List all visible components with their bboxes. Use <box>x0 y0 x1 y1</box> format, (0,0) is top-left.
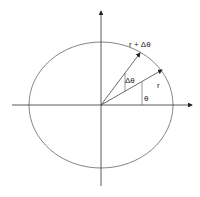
polar-diagram: r + Δθ Δθ r θ <box>0 0 200 197</box>
label-r-plus-dtheta: r + Δθ <box>129 40 151 49</box>
diagram-svg: r + Δθ Δθ r θ <box>0 0 200 197</box>
label-r: r <box>157 81 160 90</box>
label-theta: θ <box>144 94 149 103</box>
label-dtheta: Δθ <box>125 76 135 85</box>
